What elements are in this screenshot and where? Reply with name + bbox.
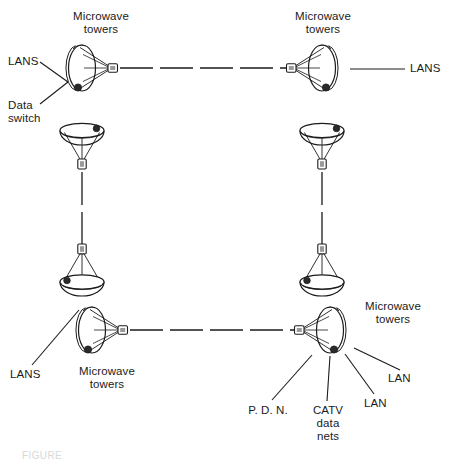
label-lan-upper: LAN <box>388 372 411 385</box>
label-lans-top-left: LANS <box>8 55 38 68</box>
node-dish-top-left <box>60 123 104 169</box>
leader-lan-upper <box>354 348 400 370</box>
label-data-switch: Data switch <box>8 99 41 125</box>
label-pdn: P. D. N. <box>228 404 308 417</box>
leader-top-left-data-switch <box>40 82 68 104</box>
label-catv-data-nets: CATV data nets <box>298 404 358 443</box>
leader-catv <box>327 356 330 401</box>
node-dish-bottom-right <box>300 244 344 296</box>
diagram-canvas: Microwave towers LANS Data switch Microw… <box>0 0 463 463</box>
node-horn-top-left <box>66 45 118 91</box>
label-lans-bottom-left: LANS <box>10 368 40 381</box>
label-microwave-towers-top-left: Microwave towers <box>56 10 146 36</box>
label-lans-top-right: LANS <box>410 62 440 75</box>
leader-pdn <box>272 355 312 400</box>
node-horn-bottom-right <box>295 307 347 353</box>
figure-caption: FIGURE <box>22 450 62 461</box>
label-microwave-towers-bottom-left: Microwave towers <box>62 365 152 391</box>
label-microwave-towers-top-right: Microwave towers <box>268 10 378 36</box>
leader-lan-lower <box>345 354 374 394</box>
label-lan-lower: LAN <box>364 397 387 410</box>
label-microwave-towers-bottom-right: Microwave towers <box>348 300 438 326</box>
node-horn-top-right <box>287 45 339 91</box>
node-horn-bottom-left <box>76 307 128 353</box>
node-dish-top-right <box>300 123 344 169</box>
leader-bottom-left-lans <box>32 310 79 365</box>
node-dish-bottom-left <box>60 244 104 296</box>
diagram-graphics <box>0 0 463 463</box>
leader-top-left-lans <box>40 62 68 82</box>
